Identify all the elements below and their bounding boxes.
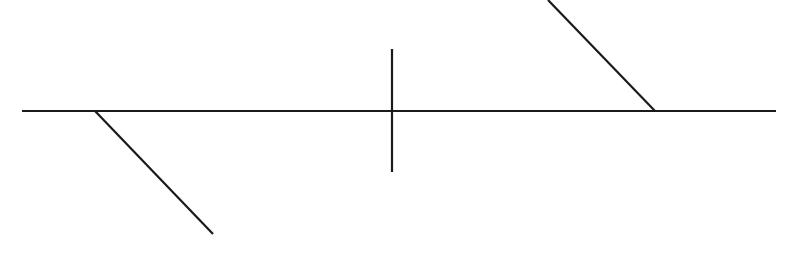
- diagram-background: [0, 0, 789, 266]
- line-diagram: [0, 0, 789, 266]
